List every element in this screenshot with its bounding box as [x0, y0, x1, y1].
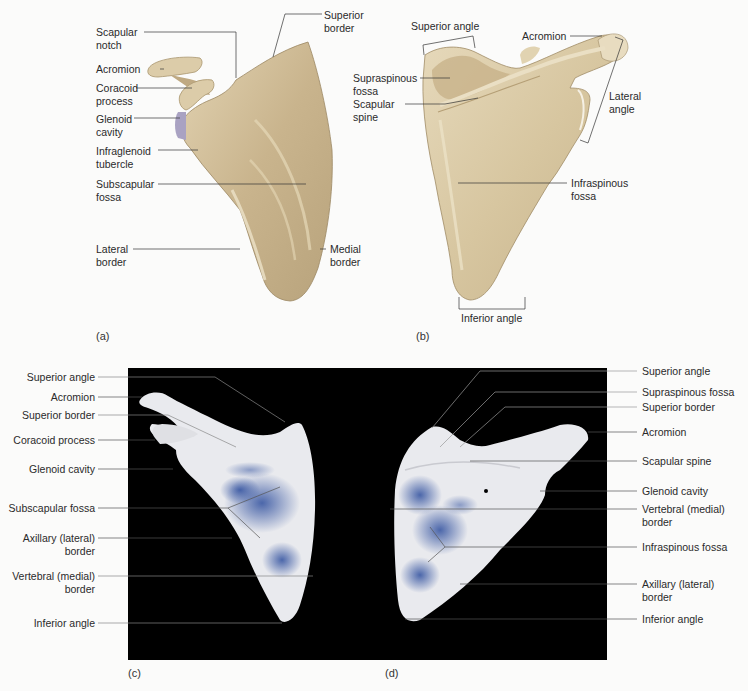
- label-b-superior-angle: Superior angle: [411, 20, 479, 33]
- panel-b-bone: [423, 34, 628, 300]
- label-d-superior-angle: Superior angle: [642, 365, 710, 378]
- label-a-acromion: Acromion: [96, 63, 140, 76]
- label-c-vertebral-medial-border: Vertebral (medial) border: [0, 570, 95, 595]
- label-a-infraglenoid-tubercle: Infraglenoid tubercle: [96, 145, 151, 170]
- panel-a-bone: [148, 42, 332, 301]
- label-c-superior-border: Superior border: [0, 409, 95, 422]
- label-a-subscapular-fossa: Subscapular fossa: [96, 178, 154, 203]
- label-b-scapular-spine: Scapular spine: [353, 98, 394, 123]
- label-d-inferior-angle: Inferior angle: [642, 613, 703, 626]
- label-c-superior-angle: Superior angle: [0, 371, 95, 384]
- panel-tag-b: (b): [416, 330, 429, 342]
- label-c-axillary-lateral-border: Axillary (lateral) border: [0, 532, 95, 557]
- label-a-superior-border: Superior border: [324, 9, 364, 34]
- label-a-coracoid-process: Coracoid process: [96, 82, 138, 107]
- label-a-glenoid-cavity: Glenoid cavity: [96, 113, 132, 138]
- label-d-supraspinous-fossa: Supraspinous fossa: [642, 386, 734, 399]
- label-b-acromion: Acromion: [522, 30, 566, 43]
- label-b-infraspinous-fossa: Infraspinous fossa: [571, 177, 628, 202]
- panel-c-bone-photo: [139, 393, 315, 622]
- panel-tag-c: (c): [128, 667, 141, 679]
- label-c-coracoid-process: Coracoid process: [0, 434, 95, 447]
- label-d-axillary-lateral-border: Axillary (lateral) border: [642, 578, 714, 603]
- panel-tag-d: (d): [385, 667, 398, 679]
- panel-tag-a: (a): [96, 330, 109, 342]
- label-a-medial-border: Medial border: [330, 243, 361, 268]
- label-b-inferior-angle: Inferior angle: [461, 312, 522, 325]
- label-c-acromion: Acromion: [0, 391, 95, 404]
- label-d-scapular-spine: Scapular spine: [642, 455, 711, 468]
- label-d-glenoid-cavity: Glenoid cavity: [642, 485, 708, 498]
- label-d-infraspinous-fossa: Infraspinous fossa: [642, 541, 727, 554]
- label-d-vertebral-medial-border: Vertebral (medial) border: [642, 503, 725, 528]
- scapula-figure: Scapular notch Acromion Coracoid process…: [0, 0, 748, 691]
- label-d-superior-border: Superior border: [642, 401, 715, 414]
- label-b-lateral-angle: Lateral angle: [609, 90, 641, 115]
- label-c-subscapular-fossa: Subscapular fossa: [0, 502, 95, 515]
- label-d-acromion: Acromion: [642, 426, 686, 439]
- label-c-inferior-angle: Inferior angle: [0, 617, 95, 630]
- label-a-scapular-notch: Scapular notch: [96, 26, 137, 51]
- panel-d-bone-photo: [394, 424, 588, 621]
- label-c-glenoid-cavity: Glenoid cavity: [0, 463, 95, 476]
- label-b-supraspinous-fossa: Supraspinous fossa: [353, 72, 417, 97]
- label-a-lateral-border: Lateral border: [96, 243, 128, 268]
